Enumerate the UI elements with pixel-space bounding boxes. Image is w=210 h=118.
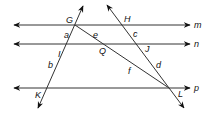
label-p: p xyxy=(193,83,199,93)
point-J: J xyxy=(144,44,150,54)
point-H: H xyxy=(124,14,131,24)
angle-f: f xyxy=(128,66,132,76)
label-n: n xyxy=(194,39,199,49)
angle-b: b xyxy=(48,60,53,70)
point-L: L xyxy=(178,89,183,99)
angle-a: a xyxy=(64,30,69,40)
segment-GL xyxy=(75,25,169,88)
point-K: K xyxy=(35,90,42,100)
angle-d: d xyxy=(156,60,162,70)
label-m: m xyxy=(194,20,202,30)
point-Q: Q xyxy=(99,46,106,56)
angle-e: e xyxy=(93,30,98,40)
line-HL xyxy=(107,5,184,108)
angle-c: c xyxy=(133,29,138,39)
geometry-diagram: m n p G H I Q J K L a e c b f d xyxy=(0,0,210,118)
point-G: G xyxy=(66,15,73,25)
